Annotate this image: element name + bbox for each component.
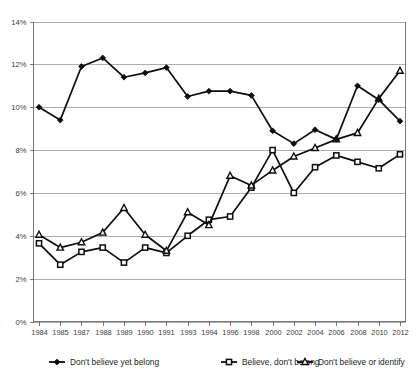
data-point-marker: [143, 245, 148, 250]
series-believe-don-t-belong: [36, 147, 402, 267]
x-tick-label-1998: 1998: [243, 328, 259, 337]
series-don-t-believe-yet-belong: [36, 55, 403, 147]
data-point-marker: [57, 244, 63, 250]
data-point-marker: [100, 245, 105, 250]
data-point-marker: [226, 359, 231, 364]
data-point-marker: [54, 359, 60, 365]
y-axis-tick-labels: 0%2%4%6%8%10%12%14%: [11, 18, 26, 327]
chart-canvas: 0%2%4%6%8%10%12%14% 19841985198719881989…: [0, 0, 419, 381]
legend-item-0: Don't believe yet belong: [49, 357, 159, 367]
data-point-marker: [121, 260, 126, 265]
data-point-marker: [185, 233, 190, 238]
data-point-marker: [78, 239, 84, 245]
data-point-marker: [376, 166, 381, 171]
gridlines-group: [34, 23, 406, 323]
data-point-marker: [142, 70, 148, 76]
x-tick-label-1990: 1990: [137, 328, 153, 337]
y-tick-label: 2%: [16, 275, 27, 284]
data-point-marker: [184, 209, 190, 215]
data-point-marker: [355, 159, 360, 164]
y-tick-label: 0%: [16, 318, 27, 327]
x-tick-label-2012: 2012: [392, 328, 408, 337]
y-tick-label: 4%: [16, 232, 27, 241]
data-point-marker: [58, 262, 63, 267]
y-tick-label: 10%: [11, 103, 26, 112]
y-tick-label: 8%: [16, 146, 27, 155]
data-point-marker: [36, 241, 41, 246]
series-don-t-believe-or-identify: [36, 67, 403, 253]
x-tick-label-2000: 2000: [265, 328, 281, 337]
series-polyline: [39, 58, 400, 144]
legend-label: Don't believe yet belong: [70, 357, 159, 367]
x-tick-label-1985: 1985: [52, 328, 68, 337]
data-point-marker: [206, 88, 212, 94]
tickmarks-group: [30, 23, 401, 326]
data-point-marker: [79, 249, 84, 254]
x-tick-label-2002: 2002: [286, 328, 302, 337]
y-tick-label: 6%: [16, 189, 27, 198]
series-polyline: [39, 150, 400, 265]
x-tick-label-2008: 2008: [350, 328, 366, 337]
data-point-marker: [334, 153, 339, 158]
x-tick-label-2006: 2006: [328, 328, 344, 337]
line-chart-figure: 0%2%4%6%8%10%12%14% 19841985198719881989…: [0, 0, 419, 381]
chart-legend: Don't believe yet belongBelieve, don't b…: [49, 357, 406, 367]
y-tick-label: 12%: [11, 60, 26, 69]
axes-group: [34, 22, 406, 322]
data-point-marker: [312, 144, 318, 150]
data-point-marker: [269, 167, 275, 173]
x-tick-label-1988: 1988: [95, 328, 111, 337]
x-axis-tick-labels: 1984198519871988198919901991199319941996…: [31, 328, 408, 337]
data-point-marker: [121, 204, 127, 210]
data-point-marker: [291, 190, 296, 195]
data-point-marker: [227, 172, 233, 178]
data-point-marker: [36, 231, 42, 237]
data-point-marker: [397, 152, 402, 157]
data-point-marker: [397, 67, 403, 73]
x-tick-label-1993: 1993: [180, 328, 196, 337]
data-point-marker: [312, 165, 317, 170]
x-tick-label-1991: 1991: [158, 328, 174, 337]
series-polyline: [39, 71, 400, 251]
x-tick-label-1987: 1987: [73, 328, 89, 337]
y-tick-label: 14%: [11, 18, 26, 27]
x-tick-label-1984: 1984: [31, 328, 47, 337]
series-layer: [36, 55, 403, 267]
data-point-marker: [270, 147, 275, 152]
x-tick-label-1989: 1989: [116, 328, 132, 337]
data-point-marker: [291, 153, 297, 159]
data-point-marker: [228, 214, 233, 219]
x-tick-label-1994: 1994: [201, 328, 217, 337]
x-tick-label-2010: 2010: [371, 328, 387, 337]
x-tick-label-2004: 2004: [307, 328, 323, 337]
data-point-marker: [227, 88, 233, 94]
x-tick-label-1996: 1996: [222, 328, 238, 337]
legend-label: Don't believe or identify: [318, 357, 406, 367]
